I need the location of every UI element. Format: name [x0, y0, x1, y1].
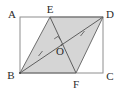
- point-label-d: D: [106, 9, 114, 20]
- point-label-a: A: [8, 9, 16, 20]
- point-label-o: O: [56, 46, 64, 57]
- point-label-e: E: [47, 4, 54, 15]
- point-label-f: F: [73, 79, 79, 90]
- vertex-dot-b: [19, 72, 21, 74]
- point-label-c: C: [106, 71, 113, 82]
- point-label-b: B: [7, 70, 14, 81]
- geometry-figure: A E D B F C O: [0, 0, 118, 91]
